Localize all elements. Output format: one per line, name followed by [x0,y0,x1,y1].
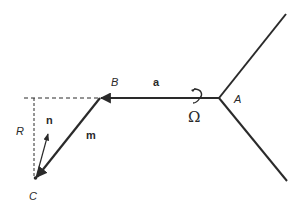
label-vector-n: n [46,114,53,126]
label-point-a: A [233,93,241,105]
label-omega: Ω [188,108,200,126]
label-radius-r: R [16,125,24,137]
rotation-arrowhead-icon [191,88,196,92]
label-vector-m: m [86,129,96,141]
branch-upper [219,14,286,98]
point-c-dot [34,176,38,180]
branch-lower [219,98,287,181]
label-vector-a: a [153,76,160,88]
vector-diagram: B a A Ω R n m C [0,0,302,208]
rotation-arrow-icon [193,89,202,103]
label-point-c: C [29,190,37,202]
label-point-b: B [111,76,118,88]
